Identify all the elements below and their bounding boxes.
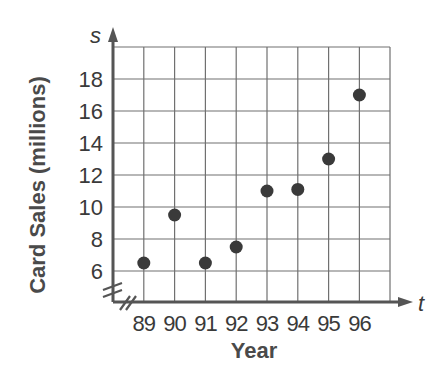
y-tick-label: 14 <box>79 131 103 156</box>
data-point <box>230 241 243 254</box>
data-point <box>261 185 274 198</box>
y-tick-label: 18 <box>79 67 103 92</box>
x-tick-label: 93 <box>256 311 279 336</box>
data-point <box>291 183 304 196</box>
data-point <box>137 257 150 270</box>
x-tick-label: 95 <box>317 311 340 336</box>
scatter-chart: st 6810121416188990919293949596 <box>0 0 441 390</box>
y-tick-label: 8 <box>91 227 103 252</box>
x-tick-label: 89 <box>133 311 156 336</box>
data-point <box>353 89 366 102</box>
tick-labels: 6810121416188990919293949596 <box>79 67 372 336</box>
y-tick-label: 6 <box>91 259 103 284</box>
data-point <box>322 153 335 166</box>
x-tick-label: 92 <box>225 311 248 336</box>
y-variable-label: s <box>90 23 101 48</box>
y-tick-label: 12 <box>79 163 103 188</box>
x-axis-arrow-icon <box>398 297 413 307</box>
x-tick-label: 91 <box>194 311 217 336</box>
y-tick-label: 16 <box>79 99 103 124</box>
x-tick-label: 94 <box>287 311 310 336</box>
data-point <box>168 209 181 222</box>
x-variable-label: t <box>418 291 425 316</box>
grid-lines <box>113 47 390 302</box>
y-axis-arrow-icon <box>108 27 118 42</box>
axes: st <box>90 23 425 316</box>
data-point <box>199 257 212 270</box>
y-tick-label: 10 <box>79 195 103 220</box>
data-points <box>137 89 366 270</box>
x-tick-label: 90 <box>163 311 186 336</box>
x-tick-label: 96 <box>348 311 371 336</box>
